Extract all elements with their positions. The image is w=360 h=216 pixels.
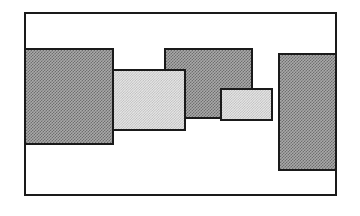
block-rect-1[interactable] [24,48,114,145]
block-rect-5[interactable] [278,53,337,171]
block-rect-4[interactable] [220,88,273,121]
figure-canvas [0,0,360,216]
block-rect-2[interactable] [112,69,186,131]
